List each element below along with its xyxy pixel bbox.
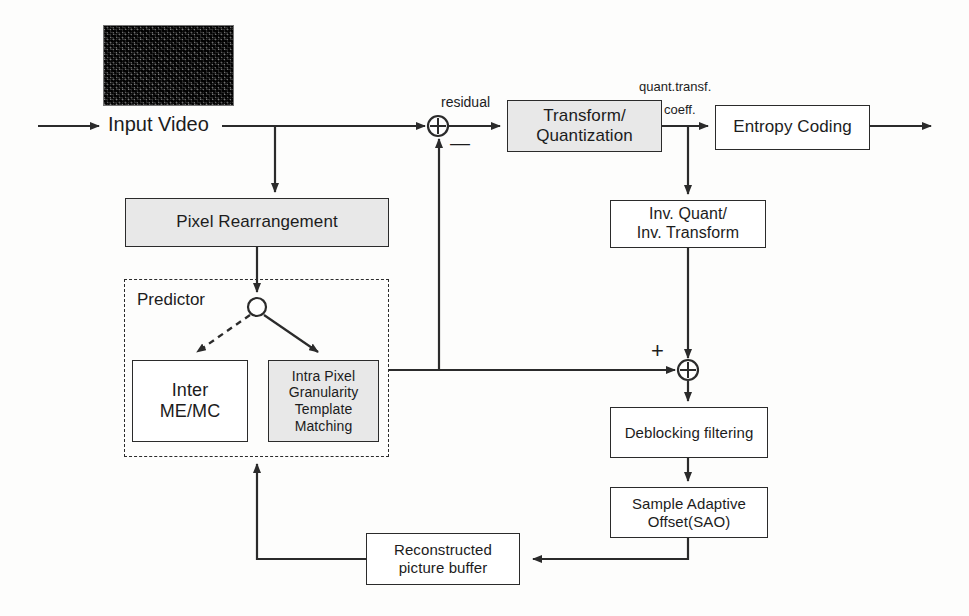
block-label: Entropy Coding [733, 117, 852, 137]
block-deblocking-filtering[interactable]: Deblocking filtering [610, 407, 768, 458]
block-label: Intra Pixel [292, 368, 355, 385]
block-label: Pixel Rearrangement [176, 212, 338, 232]
block-label: Template [295, 401, 353, 418]
block-label: Matching [295, 418, 353, 435]
block-label: Granularity [289, 384, 359, 401]
block-label: Inv. Quant/ [649, 205, 727, 224]
block-intra-pixel-granularity-template-matching[interactable]: Intra Pixel Granularity Template Matchin… [268, 360, 379, 442]
block-label: Inv. Transform [637, 224, 739, 243]
block-label: Sample Adaptive [632, 495, 746, 513]
input-video-frame-thumbnail [103, 25, 234, 106]
block-pixel-rearrangement[interactable]: Pixel Rearrangement [125, 198, 389, 247]
quant-transf-label: quant.transf. [639, 80, 711, 95]
sum-adder-glyph [678, 360, 698, 380]
block-label: Deblocking filtering [625, 424, 754, 442]
block-label: ME/MC [160, 401, 221, 422]
subtract-adder-glyph [428, 116, 448, 136]
predictor-group-label: Predictor [137, 290, 205, 310]
coeff-label: coeff. [664, 103, 696, 118]
block-label: Offset(SAO) [648, 513, 731, 531]
diagram-canvas: Input Video residual quant.transf. coeff… [0, 0, 969, 616]
block-inter-me-mc[interactable]: Inter ME/MC [132, 360, 248, 442]
block-transform-quantization[interactable]: Transform/ Quantization [507, 100, 662, 152]
block-label: Inter [172, 380, 209, 401]
block-entropy-coding[interactable]: Entropy Coding [715, 105, 870, 150]
block-label: picture buffer [399, 559, 488, 577]
block-label: Transform/ [543, 106, 626, 126]
block-label: Quantization [536, 126, 633, 146]
plus-sign-label: + [651, 338, 664, 364]
block-inv-quant-inv-transform[interactable]: Inv. Quant/ Inv. Transform [610, 200, 766, 248]
minus-sign-label: — [450, 132, 470, 155]
block-reconstructed-picture-buffer[interactable]: Reconstructed picture buffer [366, 533, 520, 585]
input-video-label: Input Video [108, 113, 209, 136]
block-sample-adaptive-offset[interactable]: Sample Adaptive Offset(SAO) [610, 487, 768, 538]
block-label: Reconstructed [394, 541, 492, 559]
residual-label: residual [441, 94, 490, 110]
